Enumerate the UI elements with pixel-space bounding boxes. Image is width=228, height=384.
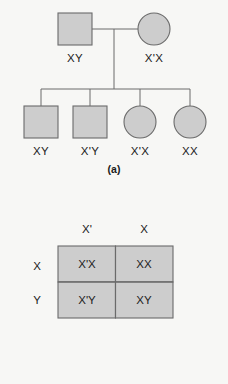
punnett-row-header-1: X	[33, 260, 41, 272]
child-4-genotype: XX	[182, 145, 198, 157]
punnett-square-diagram: X' X X Y X'X XX X'Y XY	[0, 192, 228, 384]
parent-mother: X'X	[138, 13, 170, 64]
panel-a-caption: (a)	[0, 163, 228, 175]
punnett-column-headers: X' X	[82, 223, 148, 235]
child-3-genotype: X'X	[131, 145, 149, 157]
punnett-cell-r1c2: XX	[136, 258, 152, 270]
child-2: X'Y	[73, 106, 107, 157]
child-1-genotype: XY	[33, 145, 49, 157]
child-2-genotype: X'Y	[81, 145, 99, 157]
punnett-row-headers: X Y	[33, 260, 41, 306]
parent-father-genotype: XY	[67, 52, 83, 64]
child-1: XY	[24, 106, 58, 157]
child-4: XX	[174, 106, 206, 157]
parent-father: XY	[58, 13, 92, 64]
female-circle-symbol	[124, 106, 156, 138]
male-square-symbol	[58, 13, 92, 45]
pedigree-panel: XY X'X XY X'Y X'X	[0, 0, 228, 192]
punnett-row-header-2: Y	[33, 294, 41, 306]
punnett-grid	[58, 246, 173, 318]
punnett-panel: X' X X Y X'X XX X'Y XY	[0, 192, 228, 384]
male-square-symbol	[24, 106, 58, 138]
genetics-figure: XY X'X XY X'Y X'X	[0, 0, 228, 384]
punnett-cell-r1c1: X'X	[78, 258, 96, 270]
punnett-cell-r2c1: X'Y	[78, 294, 96, 306]
female-circle-symbol	[174, 106, 206, 138]
parent-mother-genotype: X'X	[145, 52, 163, 64]
punnett-cell-r2c2: XY	[136, 294, 152, 306]
punnett-column-header-2: X	[140, 223, 148, 235]
male-square-symbol	[73, 106, 107, 138]
punnett-column-header-1: X'	[82, 223, 92, 235]
child-3: X'X	[124, 106, 156, 157]
female-circle-symbol	[138, 13, 170, 45]
